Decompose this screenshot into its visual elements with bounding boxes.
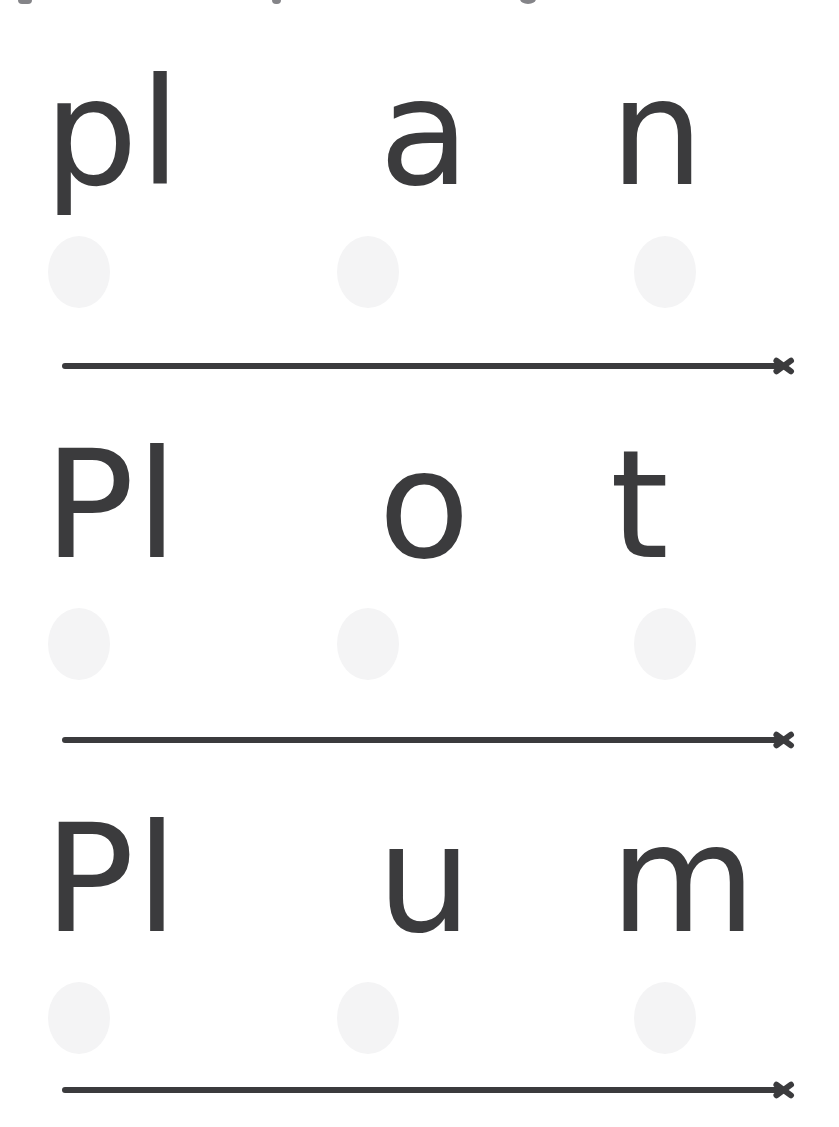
sound-dot: [48, 982, 110, 1054]
sound-dot: [337, 236, 399, 308]
sound-dot-group: [0, 982, 839, 1072]
remnant-fragment: [520, 0, 536, 4]
worksheet-page: pl a n Pl o t: [0, 0, 839, 1127]
word-segment-vowel: o: [320, 412, 530, 597]
sound-dot: [634, 236, 696, 308]
sound-dot: [48, 608, 110, 680]
sound-dot: [634, 982, 696, 1054]
letter-band: pl a n: [0, 40, 839, 225]
word-segment-coda: m: [610, 786, 810, 971]
word-segment-coda: t: [610, 412, 810, 597]
remnant-fragment: [272, 0, 281, 4]
blend-row-plan: pl a n: [0, 40, 839, 400]
letter-band: Pl u m: [0, 786, 839, 971]
sound-dot: [634, 608, 696, 680]
word-segment-onset: Pl: [44, 412, 274, 597]
word-segment-vowel: a: [320, 40, 530, 225]
blending-arrow: [0, 1076, 839, 1104]
arrow-head-icon: [772, 352, 800, 380]
sound-dot: [48, 236, 110, 308]
remnant-fragment: [18, 0, 32, 4]
word-segment-vowel: u: [320, 786, 530, 971]
word-segment-onset: pl: [44, 40, 274, 225]
arrow-shaft: [62, 363, 784, 369]
arrow-shaft: [62, 737, 784, 743]
arrow-head-icon: [772, 726, 800, 754]
sound-dot-group: [0, 236, 839, 326]
blending-arrow: [0, 352, 839, 380]
top-edge-remnant: [0, 0, 839, 5]
sound-dot-group: [0, 608, 839, 698]
sound-dot: [337, 608, 399, 680]
word-segment-coda: n: [610, 40, 810, 225]
arrow-shaft: [62, 1087, 784, 1093]
blend-row-plum: Pl u m: [0, 786, 839, 1127]
letter-band: Pl o t: [0, 412, 839, 597]
word-segment-onset: Pl: [44, 786, 274, 971]
blending-arrow: [0, 726, 839, 754]
blend-row-plot: Pl o t: [0, 412, 839, 774]
arrow-head-icon: [772, 1076, 800, 1104]
sound-dot: [337, 982, 399, 1054]
